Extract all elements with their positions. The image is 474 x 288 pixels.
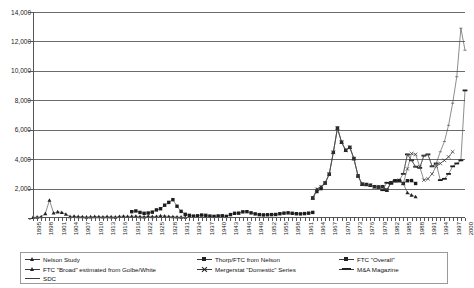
x-axis-tick [66,218,67,221]
x-axis-tick-label: 1919 [135,222,141,235]
x-axis-tick-label: 1961 [308,222,314,235]
x-axis-tick-label: 1907 [85,222,91,235]
legend-label: Thorp/FTC from Nelson [215,256,280,263]
x-axis-tick [379,218,380,221]
x-axis-labels: 1895189819011904190719101913191619191922… [33,222,465,250]
x-axis-tick [206,218,207,221]
legend-marker-icon [197,255,212,264]
x-axis-tick [54,218,55,221]
x-axis-tick [124,218,125,221]
legend-item[interactable]: Thorp/FTC from Nelson [197,255,296,265]
x-axis-tick [288,218,289,221]
x-axis-tick [111,218,112,221]
x-axis-tick [407,218,408,221]
x-axis-tick [268,218,269,221]
x-axis-tick [132,218,133,221]
x-axis-tick [342,218,343,221]
legend-item[interactable]: M&A Magazine [339,265,399,275]
x-axis-tick [317,218,318,221]
x-axis-tick-label: 1970 [345,222,351,235]
x-axis-tick [383,218,384,221]
x-axis-tick [255,218,256,221]
x-axis-tick [309,218,310,221]
x-axis-tick-label: 1922 [147,222,153,235]
x-axis-tick [374,218,375,221]
y-axis-labels: 14,00012,00010,0008,0006,0004,0002,000- [0,12,31,218]
x-axis-tick [119,218,120,221]
x-axis-tick [424,218,425,221]
x-axis-tick-label: 1916 [122,222,128,235]
legend-label: FTC "Broad" estimated from Golbe/White [43,266,156,273]
x-axis-tick [403,218,404,221]
x-axis-tick [395,218,396,221]
x-axis-tick [41,218,42,221]
x-axis-tick-label: 1952 [271,222,277,235]
x-axis-tick [362,218,363,221]
x-axis-tick [161,218,162,221]
legend-label: SDC [43,275,56,282]
x-axis-tick [218,218,219,221]
x-axis-tick-label: 1964 [320,222,326,235]
x-axis-tick [140,218,141,221]
x-axis-tick [436,218,437,221]
x-axis-tick [440,218,441,221]
x-axis-tick-label: 1943 [233,222,239,235]
x-axis-tick-label: 2000 [468,222,474,235]
legend-item[interactable]: Nelson Study [25,255,156,265]
x-axis-tick [272,218,273,221]
x-axis-tick [33,218,34,221]
x-axis-tick-label: 1910 [98,222,104,235]
legend-column: Thorp/FTC from NelsonMergerstat "Domesti… [197,255,296,274]
x-axis-tick [152,218,153,221]
x-axis-tick [169,218,170,221]
plot-frame [33,12,465,218]
x-axis-tick-label: 1898 [48,222,54,235]
legend-item[interactable]: Mergerstat "Domestic" Series [197,265,296,275]
x-axis-tick [305,218,306,221]
x-axis-tick [259,218,260,221]
x-axis-tick [136,218,137,221]
x-axis-tick-label: 1997 [456,222,462,235]
x-axis-tick-label: 1928 [172,222,178,235]
x-axis-tick [37,218,38,221]
x-axis-tick [333,218,334,221]
x-axis-tick-label: 1949 [258,222,264,235]
x-axis-tick-label: 1946 [246,222,252,235]
legend-item[interactable]: FTC "Overall" [339,255,399,265]
x-axis-tick [198,218,199,221]
x-axis-tick-label: 1979 [382,222,388,235]
x-axis-tick [329,218,330,221]
x-axis-tick [432,218,433,221]
x-axis-tick [243,218,244,221]
x-axis-tick-label: 1985 [406,222,412,235]
legend-item[interactable]: FTC "Broad" estimated from Golbe/White [25,265,156,275]
x-axis-tick [399,218,400,221]
x-axis-tick-label: 1913 [110,222,116,235]
legend-marker-icon [339,265,354,274]
plot-area [33,12,465,218]
x-axis-tick [82,218,83,221]
x-axis-tick [156,218,157,221]
x-axis-tick [144,218,145,221]
x-axis-tick-label: 1925 [159,222,165,235]
x-axis-tick [185,218,186,221]
x-axis-tick [247,218,248,221]
legend-item[interactable]: SDC [25,274,156,284]
x-axis-tick [453,218,454,221]
x-axis-tick [428,218,429,221]
x-axis-tick [222,218,223,221]
x-axis-tick [193,218,194,221]
x-axis-tick-label: 1976 [369,222,375,235]
x-axis-tick [444,218,445,221]
x-axis-tick [189,218,190,221]
legend-label: Nelson Study [43,256,80,263]
x-axis-tick [387,218,388,221]
x-axis-tick [202,218,203,221]
legend-label: M&A Magazine [357,266,399,273]
x-axis-tick [74,218,75,221]
legend-marker-icon [25,265,40,274]
legend-marker-icon [25,274,40,283]
x-axis-tick-label: 1958 [295,222,301,235]
x-axis-tick [313,218,314,221]
x-axis-tick [173,218,174,221]
